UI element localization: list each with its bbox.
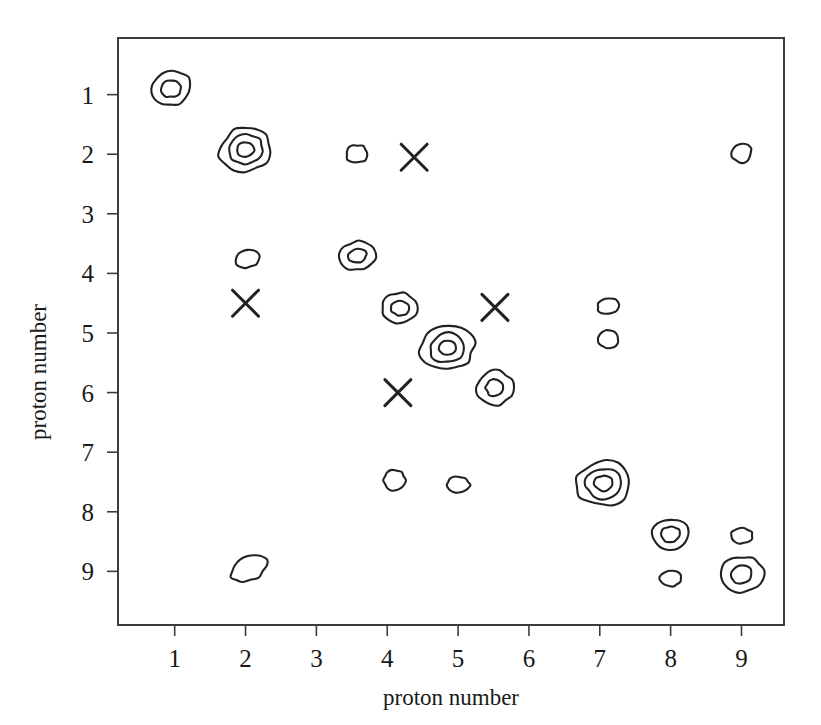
contour-ring xyxy=(336,238,378,274)
contour-ring xyxy=(438,339,457,356)
contour-marker xyxy=(415,321,479,373)
x-tick-label: 1 xyxy=(168,645,181,672)
contour-ring xyxy=(447,477,471,493)
contour-ring xyxy=(148,67,194,109)
cross-marker xyxy=(401,144,427,170)
contour-ring xyxy=(225,549,272,589)
contour-marker xyxy=(718,553,767,596)
contour-ring xyxy=(650,517,691,552)
x-tick-label: 5 xyxy=(452,645,465,672)
x-tick-label: 6 xyxy=(523,645,536,672)
contour-ring xyxy=(476,370,514,406)
contour-ring xyxy=(347,247,368,265)
contour-ring xyxy=(574,457,632,510)
contour-marker xyxy=(731,528,752,544)
contour-ring xyxy=(659,571,681,587)
x-tick-label: 9 xyxy=(735,645,748,672)
contour-marker xyxy=(148,67,194,109)
contour-ring xyxy=(226,130,266,167)
contour-marker xyxy=(234,248,261,270)
contour-ring xyxy=(583,467,623,502)
contour-ring xyxy=(159,78,182,99)
contour-marker xyxy=(731,144,751,163)
y-tick-label: 3 xyxy=(82,201,95,228)
y-tick-label: 8 xyxy=(82,499,95,526)
cross-marker xyxy=(482,294,508,320)
contour-marker xyxy=(598,330,618,348)
contour-marker xyxy=(447,477,471,493)
contour-ring xyxy=(731,144,751,163)
contour-marker xyxy=(383,470,406,491)
contour-marker xyxy=(574,457,632,510)
y-axis-ticks xyxy=(107,95,118,572)
contour-marker xyxy=(336,238,378,274)
chart-figure: 123456789 123456789 proton number proton… xyxy=(0,0,821,725)
contour-marker xyxy=(659,571,681,587)
x-tick-label: 3 xyxy=(310,645,323,672)
y-tick-label: 1 xyxy=(82,82,95,109)
y-tick-label: 7 xyxy=(82,439,95,466)
y-tick-label: 2 xyxy=(82,141,95,168)
x-axis-tick-labels: 123456789 xyxy=(168,645,747,672)
scatter-contour-plot: 123456789 123456789 proton number proton… xyxy=(0,0,821,725)
contour-ring xyxy=(345,144,368,164)
contour-ring xyxy=(428,330,466,365)
contour-ring xyxy=(391,301,409,316)
contour-marker xyxy=(225,549,272,589)
y-tick-label: 4 xyxy=(82,260,95,287)
y-axis-tick-labels: 123456789 xyxy=(82,82,95,586)
contour-marker xyxy=(383,292,418,323)
x-tick-label: 7 xyxy=(594,645,607,672)
cross-marker-group xyxy=(233,144,508,405)
cross-marker xyxy=(385,380,411,406)
contour-ring xyxy=(485,379,503,396)
contour-ring xyxy=(729,564,753,585)
contour-ring xyxy=(660,525,681,543)
contour-ring xyxy=(593,475,614,493)
contour-ring xyxy=(598,330,618,348)
contour-marker xyxy=(650,517,691,552)
y-tick-label: 6 xyxy=(82,380,95,407)
x-tick-label: 4 xyxy=(381,645,394,672)
x-axis-ticks xyxy=(175,625,742,636)
contour-ring xyxy=(234,248,261,270)
x-tick-label: 8 xyxy=(664,645,677,672)
x-tick-label: 2 xyxy=(239,645,252,672)
y-tick-label: 5 xyxy=(82,320,95,347)
y-tick-label: 9 xyxy=(82,558,95,585)
x-axis-title: proton number xyxy=(383,685,519,710)
contour-ring xyxy=(731,528,752,544)
contour-marker xyxy=(345,144,368,164)
contour-ring xyxy=(383,470,406,491)
contour-ring xyxy=(213,122,275,178)
y-axis-title: proton number xyxy=(26,304,51,440)
contour-ring xyxy=(597,298,620,315)
contour-marker-group xyxy=(148,67,768,596)
contour-ring xyxy=(718,553,767,596)
contour-ring xyxy=(383,292,418,323)
contour-marker xyxy=(213,122,275,178)
contour-marker xyxy=(476,370,514,406)
contour-marker xyxy=(597,298,620,315)
cross-marker xyxy=(233,290,259,316)
contour-ring xyxy=(415,321,479,373)
contour-ring xyxy=(236,140,256,158)
